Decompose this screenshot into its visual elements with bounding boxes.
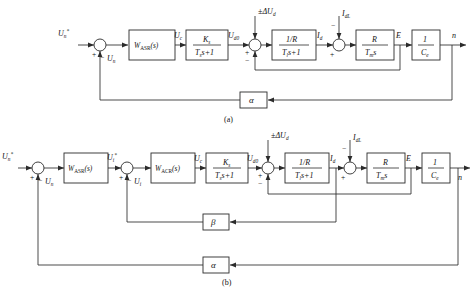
line-acr-to-converter-b [195, 166, 206, 171]
block-armature-den-a: Tls+1 [282, 48, 300, 58]
caption-b: (b) [222, 278, 232, 287]
label-conv-volt-a: Ud0 [228, 31, 239, 41]
label-dist-volt-a: ±ΔUd [258, 7, 276, 17]
diagram-b: Un* + − Un WASR(s) Ui* [2, 131, 470, 287]
line-armature-to-sum3-a [316, 43, 333, 48]
label-arm-current-b: Id [329, 154, 336, 164]
label-load-current-a: IdL [341, 9, 350, 19]
sum-junction-current-b [344, 162, 356, 174]
label-load-current-b: IdL [352, 133, 361, 143]
output-line-a [440, 43, 466, 48]
line-converter-to-sum3-b [248, 166, 262, 171]
outer-feedback-left-a [100, 95, 240, 100]
sign-minus-current-a: − [331, 21, 335, 30]
load-current-input-a [337, 16, 342, 39]
label-arm-current-a: Id [316, 31, 323, 41]
sign-plus-current-ref-b: + [119, 173, 123, 182]
label-emf-b: E [405, 154, 411, 163]
label-dist-volt-b: ±ΔUd [271, 131, 289, 141]
line-sum2-to-armature-a [261, 43, 272, 48]
line-sum1-to-asr-b [44, 166, 64, 171]
sum-junction-current-a [333, 39, 345, 51]
line-sum4-to-mechanical-b [356, 166, 367, 171]
block-speed-feedback-b [203, 257, 229, 273]
input-line-b [18, 166, 32, 171]
block-converter-den-a: Tss+1 [195, 48, 214, 58]
output-line-b [450, 166, 470, 171]
disturbance-input-b [266, 140, 271, 162]
label-ref-speed-a: Un* [58, 28, 69, 39]
block-current-feedback-b [203, 214, 229, 230]
sign-plus-speed-b: + [30, 173, 34, 182]
label-ctrl-volt-b: Uc [194, 154, 203, 164]
block-armature-den-b: Tls+1 [295, 171, 313, 181]
sign-plus-current-a: + [330, 50, 334, 59]
label-fb-current-b: Ui [134, 177, 142, 187]
line-sum-to-asr-a [106, 43, 128, 48]
outer-feedback-arrowhead-a [268, 98, 274, 103]
sign-minus-voltage-a: − [245, 56, 249, 65]
block-emf-coef-num-b: 1 [433, 158, 437, 167]
line-converter-to-sum2-a [228, 43, 249, 48]
fb-arrow-speed-b [36, 174, 41, 265]
block-mechanical-num-b: R [382, 158, 388, 167]
label-conv-volt-b: Ud0 [247, 154, 258, 164]
sign-minus-current-b: − [342, 144, 346, 153]
label-fb-speed-a: Un [107, 54, 116, 64]
block-armature-num-a: 1/R [286, 35, 297, 44]
sign-plus-speed-a: + [92, 50, 96, 59]
load-current-input-b [348, 140, 353, 162]
block-current-feedback-label-b: β [210, 217, 216, 227]
line-mechanical-to-emf-a [394, 43, 412, 48]
inner-fb-arrow-b [266, 174, 271, 194]
line-asr-to-sum2-b [108, 166, 121, 171]
label-speed-out-a: n [452, 31, 456, 40]
line-sum3-to-armature-b [274, 166, 285, 171]
label-ref-current-b: Ui* [107, 152, 117, 163]
label-fb-speed-b: Un [45, 177, 54, 187]
sum-junction-voltage-a [249, 39, 261, 51]
speed-feedback-arrowhead-b [230, 263, 236, 268]
input-line-a [78, 43, 94, 48]
disturbance-input-a [253, 16, 258, 39]
block-armature-num-b: 1/R [299, 158, 310, 167]
label-ctrl-volt-a: Uc [174, 31, 183, 41]
line-asr-to-converter-a [175, 43, 186, 48]
diagram-a: Un* + − Un WASR(s) Uc [58, 7, 466, 124]
line-sum3-to-mechanical-a [345, 43, 356, 48]
label-speed-out-b: n [458, 173, 462, 182]
sign-minus-voltage-b: − [258, 179, 262, 188]
block-speed-feedback-label-b: α [211, 260, 216, 270]
block-converter-den-b: Tss+1 [215, 171, 234, 181]
label-emf-a: E [395, 31, 401, 40]
line-mechanical-to-emf-b [405, 166, 422, 171]
inner-fb-arrow-a [253, 51, 258, 70]
line-armature-to-sum4-b [329, 166, 344, 171]
block-emf-coef-num-a: 1 [423, 35, 427, 44]
block-mechanical-num-a: R [371, 35, 377, 44]
line-sum2-to-acr-b [133, 166, 151, 171]
control-block-diagram-figure: Un* + − Un WASR(s) Uc [0, 0, 473, 290]
current-feedback-arrowhead-b [230, 220, 236, 225]
label-ref-speed-b: Un* [2, 151, 13, 162]
sum-junction-voltage-b [262, 162, 274, 174]
sign-plus-current-b: + [341, 173, 345, 182]
block-speed-feedback-label-a: α [249, 95, 254, 105]
caption-a: (a) [224, 115, 233, 124]
